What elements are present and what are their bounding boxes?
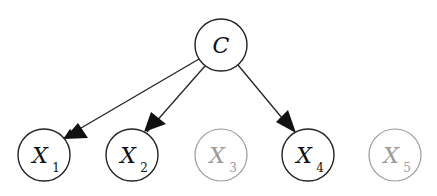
node-x3-subscript: 3 <box>229 161 237 175</box>
edge-c-x1 <box>64 59 199 138</box>
node-x2-subscript: 2 <box>140 161 148 175</box>
node-c-label: C <box>213 33 230 58</box>
node-x4: X 4 <box>282 129 334 181</box>
bayesian-network-diagram: C X 1 X 2 X 3 X 4 X 5 <box>0 0 437 196</box>
node-x4-subscript: 4 <box>316 161 324 175</box>
node-x2-label: X <box>118 143 137 168</box>
node-c: C <box>195 19 247 71</box>
node-x5-label: X <box>381 143 400 168</box>
node-x3: X 3 <box>195 129 247 181</box>
node-x1-label: X <box>30 143 49 168</box>
node-x5-subscript: 5 <box>403 161 411 175</box>
edges <box>64 59 296 139</box>
node-x4-label: X <box>294 143 313 168</box>
node-x1: X 1 <box>18 129 70 181</box>
node-x1-subscript: 1 <box>52 161 60 175</box>
node-x2: X 2 <box>106 129 158 181</box>
node-x3-label: X <box>207 143 226 168</box>
node-x5: X 5 <box>369 129 421 181</box>
